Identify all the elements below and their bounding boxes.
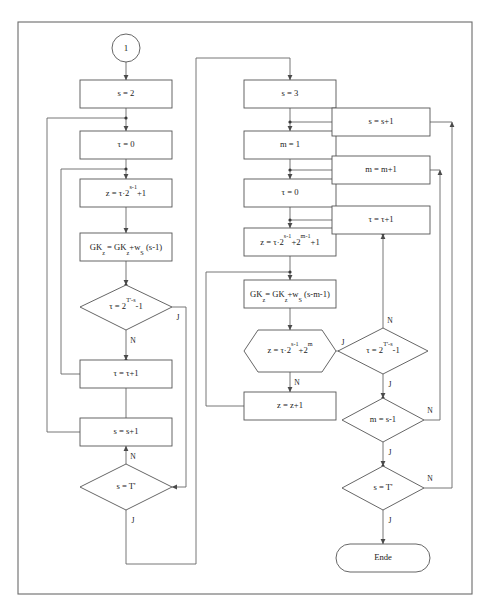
node-right-end: Ende bbox=[336, 544, 430, 572]
node-left-inc-s-label: s = s+1 bbox=[114, 426, 139, 436]
node-left-set-tau0: τ = 0 bbox=[80, 131, 172, 159]
node-mid-set-z: z = τ·2s-1+2m-1+1 bbox=[244, 228, 336, 256]
node-left-set-s2: s = 2 bbox=[80, 80, 172, 108]
node-right-decision-s-branch-no: N bbox=[427, 474, 433, 483]
node-mid-hexagon-z-branch-yes: J bbox=[342, 338, 345, 347]
node-left-inc-s: s = s+1 bbox=[80, 418, 172, 446]
node-left-decision-tau-branch-yes: J bbox=[177, 313, 180, 322]
node-left-decision-s-branch-no: N bbox=[130, 452, 136, 461]
junction-m1-entry bbox=[288, 120, 291, 123]
node-left-inc-tau-label: τ = τ+1 bbox=[113, 368, 138, 378]
node-mid-set-m1-label: m = 1 bbox=[280, 139, 300, 149]
junction-mid-gk-entry bbox=[288, 270, 291, 273]
node-mid-set-m1: m = 1 bbox=[244, 131, 336, 159]
node-left-decision-tau-branch-no: N bbox=[130, 336, 136, 345]
start-connector: 1 bbox=[112, 34, 140, 62]
junction-mid-z-entry bbox=[288, 218, 291, 221]
node-mid-inc-z-label: z = z+1 bbox=[277, 400, 303, 410]
node-mid-gk-update: GKz= GKz+wS (s-m-1) bbox=[244, 280, 336, 308]
node-right-decision-tau-branch-yes: J bbox=[389, 380, 392, 389]
node-mid-hexagon-z-branch-no: N bbox=[294, 378, 300, 387]
node-right-decision-m: m = s-1 N J bbox=[342, 398, 433, 457]
node-left-decision-tau: τ = 2T'-s-1 J N bbox=[80, 285, 180, 345]
edge-incz-loopback bbox=[206, 272, 244, 406]
node-right-inc-s-label: s = s+1 bbox=[369, 116, 394, 126]
node-left-set-tau0-label: τ = 0 bbox=[118, 139, 135, 149]
edge-dectau-j-to-decs bbox=[172, 307, 186, 487]
node-right-decision-tau-branch-no: N bbox=[387, 316, 393, 325]
node-mid-set-tau0: τ = 0 bbox=[244, 179, 336, 207]
flowchart-canvas: 1 s = 2 τ = 0 z = τ·2s-1+1 GKz = GKz+wS … bbox=[0, 0, 490, 614]
node-left-gk-update: GKz = GKz+wS (s-1) bbox=[80, 233, 172, 261]
node-left-set-s2-label: s = 2 bbox=[118, 88, 135, 98]
node-left-inc-tau: τ = τ+1 bbox=[80, 360, 172, 388]
node-right-decision-m-label: m = s-1 bbox=[370, 414, 396, 424]
node-right-decision-m-branch-no: N bbox=[427, 406, 433, 415]
start-connector-label: 1 bbox=[124, 43, 129, 53]
node-right-decision-m-branch-yes: J bbox=[389, 448, 392, 457]
junction-tau0-entry bbox=[124, 116, 127, 119]
edge-incs-loopback bbox=[47, 118, 80, 432]
node-right-end-label: Ende bbox=[374, 552, 392, 562]
junction-mid-tau0-entry bbox=[288, 168, 291, 171]
node-left-set-z: z = τ·2s-1+1 bbox=[80, 179, 172, 207]
flowchart-root: 1 s = 2 τ = 0 z = τ·2s-1+1 GKz = GKz+wS … bbox=[0, 0, 490, 614]
node-right-decision-s-label: s = T' bbox=[373, 482, 393, 492]
node-right-decision-s: s = T' N J bbox=[342, 466, 433, 525]
node-mid-hexagon-z: z = τ·2s-1+2m J N bbox=[244, 330, 345, 387]
node-mid-set-s3-label: s = 3 bbox=[282, 88, 299, 98]
node-mid-set-tau0-label: τ = 0 bbox=[282, 187, 299, 197]
node-right-inc-m: m = m+1 bbox=[332, 156, 430, 184]
node-right-inc-tau: τ = τ+1 bbox=[332, 206, 430, 234]
node-right-inc-m-label: m = m+1 bbox=[365, 164, 397, 174]
node-right-inc-tau-label: τ = τ+1 bbox=[368, 214, 393, 224]
node-right-inc-s: s = s+1 bbox=[332, 108, 430, 136]
node-right-decision-s-branch-yes: J bbox=[389, 516, 392, 525]
node-left-decision-s-branch-yes: J bbox=[132, 516, 135, 525]
node-mid-inc-z: z = z+1 bbox=[244, 392, 336, 420]
node-left-decision-s-label: s = T' bbox=[116, 481, 136, 491]
edge-inctau-loopback bbox=[61, 169, 80, 374]
junction-z-entry bbox=[124, 167, 127, 170]
node-mid-set-s3: s = 3 bbox=[244, 80, 336, 108]
